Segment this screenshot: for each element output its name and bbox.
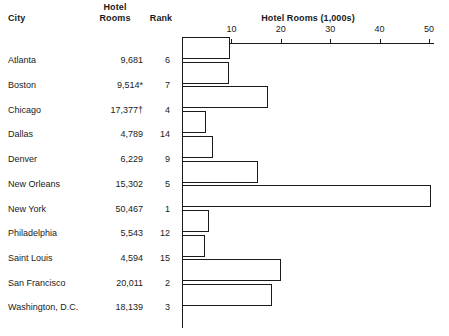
x-axis-tick <box>330 39 331 44</box>
bar <box>182 210 209 232</box>
x-axis-tick-label: 20 <box>266 24 296 35</box>
x-axis-tick-label: 10 <box>216 24 246 35</box>
hotel-rooms-figure: City Hotel Rooms Rank Hotel Rooms (1,000… <box>0 0 449 336</box>
x-axis-tick <box>281 39 282 44</box>
bar <box>182 284 272 306</box>
bar <box>182 37 230 59</box>
x-axis-tick <box>429 39 430 44</box>
x-axis-tick-label: 30 <box>315 24 345 35</box>
bar <box>182 62 229 84</box>
bar <box>182 86 268 108</box>
x-axis-tick <box>231 39 232 44</box>
x-axis-tick-label: 50 <box>414 24 444 35</box>
bar <box>182 259 281 281</box>
x-axis-tick <box>380 39 381 44</box>
bar <box>182 136 213 158</box>
bar <box>182 161 258 183</box>
bar <box>182 111 206 133</box>
bar <box>182 185 431 207</box>
bar-chart: 1020304050 <box>0 0 449 336</box>
x-axis-tick-label: 40 <box>365 24 395 35</box>
bar <box>182 235 205 257</box>
